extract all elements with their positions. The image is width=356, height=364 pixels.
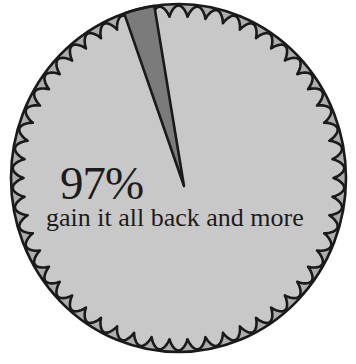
percent-label: 97%: [60, 158, 143, 208]
pie-chart: [0, 0, 356, 364]
description-label: gain it all back and more: [46, 203, 304, 233]
